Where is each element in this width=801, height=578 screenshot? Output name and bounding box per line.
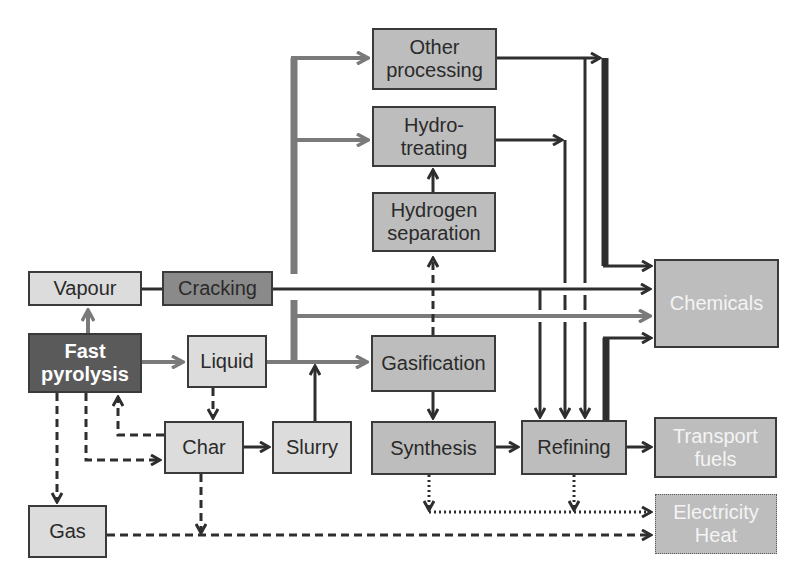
node-gas: Gas	[28, 505, 107, 558]
node-label: Fast pyrolysis	[41, 340, 129, 386]
node-label: Hydro- treating	[401, 114, 468, 160]
node-cracking: Cracking	[162, 271, 273, 306]
node-label: Cracking	[178, 277, 257, 300]
node-label: Char	[182, 436, 225, 459]
node-vapour: Vapour	[28, 271, 142, 306]
node-label: Slurry	[286, 436, 338, 459]
node-label: Gasification	[381, 352, 486, 375]
node-gasification: Gasification	[371, 335, 496, 392]
node-label: Chemicals	[670, 292, 763, 315]
node-label: Electricity Heat	[673, 501, 759, 547]
fast-pyrolysis-process-diagram: Other processing Hydro- treating Hydroge…	[0, 0, 801, 578]
node-refining: Refining	[521, 420, 627, 475]
node-label: Other processing	[386, 36, 483, 82]
node-label: Liquid	[200, 350, 253, 373]
node-hydrotreating: Hydro- treating	[372, 106, 496, 167]
thick-connectors	[603, 58, 651, 420]
node-transport-fuels: Transport fuels	[654, 417, 777, 478]
dotted-connectors	[429, 475, 651, 512]
node-label: Synthesis	[390, 437, 477, 460]
node-liquid: Liquid	[187, 335, 267, 388]
node-label: Gas	[49, 520, 86, 543]
node-label: Hydrogen separation	[387, 199, 480, 245]
node-slurry: Slurry	[272, 421, 352, 474]
node-label: Refining	[537, 436, 610, 459]
dashed-connectors	[57, 258, 651, 535]
node-synthesis: Synthesis	[371, 421, 496, 475]
node-electricity-heat: Electricity Heat	[655, 494, 777, 554]
node-label: Vapour	[53, 277, 116, 300]
node-fast-pyrolysis: Fast pyrolysis	[28, 333, 142, 393]
node-other-processing: Other processing	[372, 28, 497, 90]
node-chemicals: Chemicals	[654, 259, 779, 348]
node-hydrogen-separation: Hydrogen separation	[372, 192, 496, 252]
node-char: Char	[164, 421, 244, 474]
node-label: Transport fuels	[673, 425, 758, 471]
